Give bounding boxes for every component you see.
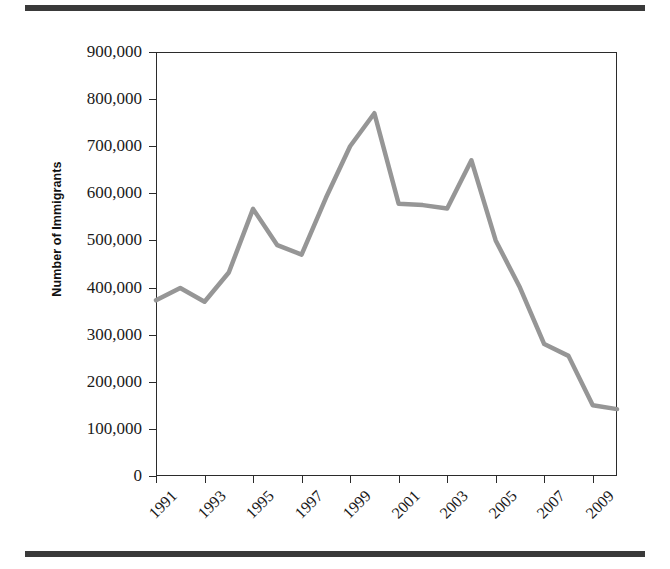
y-axis-tick-mark xyxy=(149,193,156,194)
y-axis-tick-mark xyxy=(149,335,156,336)
y-axis-tick-label: 900,000 xyxy=(30,42,142,62)
plot-area xyxy=(156,52,617,476)
y-axis-tick-mark xyxy=(149,288,156,289)
y-axis-tick-mark xyxy=(149,429,156,430)
y-axis-tick-label: 600,000 xyxy=(30,183,142,203)
y-axis-tick-label: 300,000 xyxy=(30,325,142,345)
y-axis-tick-label: 700,000 xyxy=(30,136,142,156)
y-axis-tick-mark xyxy=(149,240,156,241)
y-axis-tick-mark xyxy=(149,476,156,477)
x-axis-tick-mark xyxy=(205,476,206,483)
y-axis-tick-label: 100,000 xyxy=(30,419,142,439)
line-chart: Number of Immigrants 900,000800,000700,0… xyxy=(0,0,670,569)
y-axis-tick-mark xyxy=(149,146,156,147)
x-axis-tick-mark xyxy=(156,476,157,483)
x-axis-tick-mark xyxy=(302,476,303,483)
y-axis-tick-label: 500,000 xyxy=(30,230,142,250)
x-axis-tick-mark xyxy=(253,476,254,483)
immigrants-line-series xyxy=(157,53,616,475)
x-axis-tick-mark xyxy=(496,476,497,483)
x-axis-tick-mark xyxy=(593,476,594,483)
figure-page: Number of Immigrants 900,000800,000700,0… xyxy=(0,0,670,569)
y-axis-tick-label: 200,000 xyxy=(30,372,142,392)
x-axis-tick-mark xyxy=(399,476,400,483)
x-axis-tick-mark xyxy=(544,476,545,483)
y-axis-tick-mark xyxy=(149,52,156,53)
x-axis-tick-mark xyxy=(350,476,351,483)
y-axis-tick-mark xyxy=(149,99,156,100)
y-axis-tick-label: 0 xyxy=(30,466,142,486)
x-axis-tick-mark xyxy=(447,476,448,483)
y-axis-tick-label: 400,000 xyxy=(30,278,142,298)
y-axis-tick-mark xyxy=(149,382,156,383)
y-axis-tick-label: 800,000 xyxy=(30,89,142,109)
